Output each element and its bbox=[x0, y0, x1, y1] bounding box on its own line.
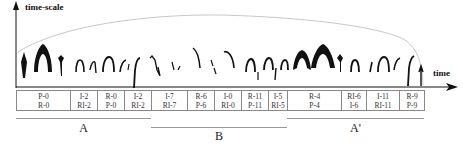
segment-cell: I-2RI-2 bbox=[71, 91, 98, 111]
segment-table: P-0R-0 I-2RI-2 R-0P-0 I-2RI-2 I-7RI-7 R-… bbox=[16, 90, 425, 111]
waveform-glyphs bbox=[21, 44, 423, 88]
segment-cell: R-6P-6 bbox=[188, 91, 215, 111]
y-axis-label: time-scale bbox=[25, 2, 63, 12]
waveform-plot bbox=[0, 0, 463, 92]
section-a-prime-label: A' bbox=[287, 121, 424, 136]
segment-cell: I-2RI-2 bbox=[125, 91, 152, 111]
segment-cell: P-0R-0 bbox=[17, 91, 71, 111]
segment-cell: I-0RI-0 bbox=[215, 91, 242, 111]
section-a-bracket bbox=[16, 118, 151, 119]
section-b-label: B bbox=[151, 129, 287, 144]
section-b-bracket bbox=[151, 127, 287, 128]
section-a-label: A bbox=[16, 121, 151, 136]
x-axis-label: time bbox=[433, 68, 450, 78]
section-a-prime-bracket bbox=[287, 118, 424, 119]
segment-cell: R-0P-0 bbox=[98, 91, 125, 111]
time-scale-envelope bbox=[18, 15, 423, 85]
segment-cell: R-9P-9 bbox=[400, 91, 425, 111]
segment-cell: R-11P-11 bbox=[242, 91, 269, 111]
segment-cell: I-7RI-7 bbox=[152, 91, 188, 111]
y-axis-arrow-icon bbox=[13, 1, 19, 10]
segment-cell: RI-6I-6 bbox=[342, 91, 367, 111]
segment-cell: I-11RI-11 bbox=[367, 91, 400, 111]
segment-cell: R-4P-4 bbox=[288, 91, 342, 111]
segment-cell: I-5RI-5 bbox=[269, 91, 288, 111]
